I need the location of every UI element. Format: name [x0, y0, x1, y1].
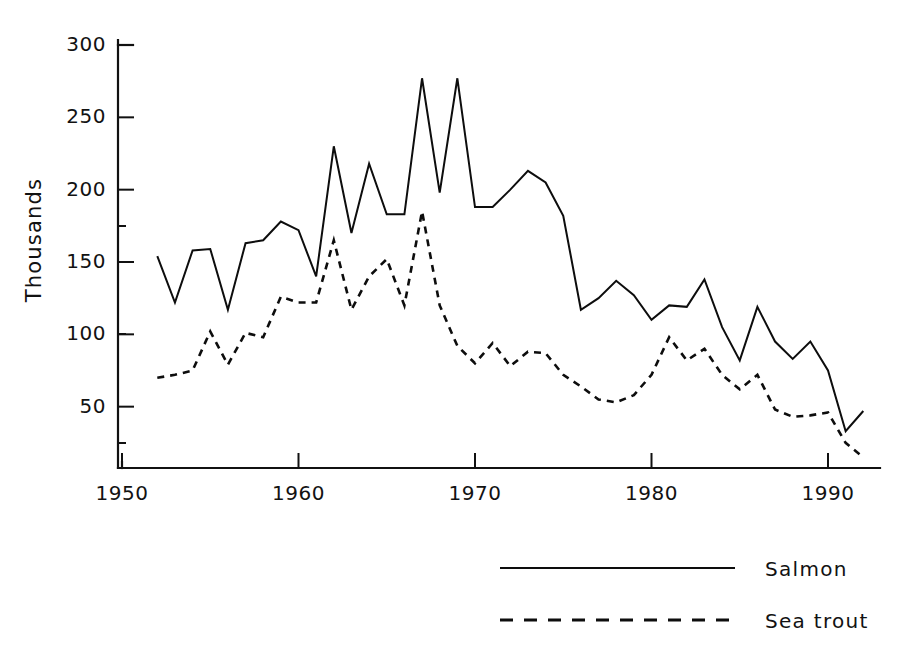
legend-label-sea-trout: Sea trout — [765, 609, 869, 633]
x-tick-label-1950: 1950 — [77, 481, 167, 505]
y-tick-label-100: 100 — [44, 321, 106, 345]
x-tick-label-1970: 1970 — [430, 481, 520, 505]
x-tick-label-1990: 1990 — [783, 481, 873, 505]
data-series-group — [157, 78, 863, 457]
y-tick-label-250: 250 — [44, 104, 106, 128]
axes-group — [118, 40, 880, 468]
y-tick-label-300: 300 — [44, 32, 106, 56]
series-line-sea-trout — [157, 211, 863, 457]
y-axis-title: Thousands — [22, 140, 46, 340]
x-tick-marks — [122, 453, 828, 468]
series-line-salmon — [157, 78, 863, 431]
legend-label-salmon: Salmon — [765, 557, 848, 581]
y-tick-label-200: 200 — [44, 177, 106, 201]
x-tick-label-1980: 1980 — [607, 481, 697, 505]
y-tick-label-150: 150 — [44, 249, 106, 273]
chart-figure: Thousands 50100150200250300 195019601970… — [0, 0, 906, 661]
legend-group — [500, 568, 735, 620]
y-tick-label-50: 50 — [44, 394, 106, 418]
x-tick-label-1960: 1960 — [254, 481, 344, 505]
